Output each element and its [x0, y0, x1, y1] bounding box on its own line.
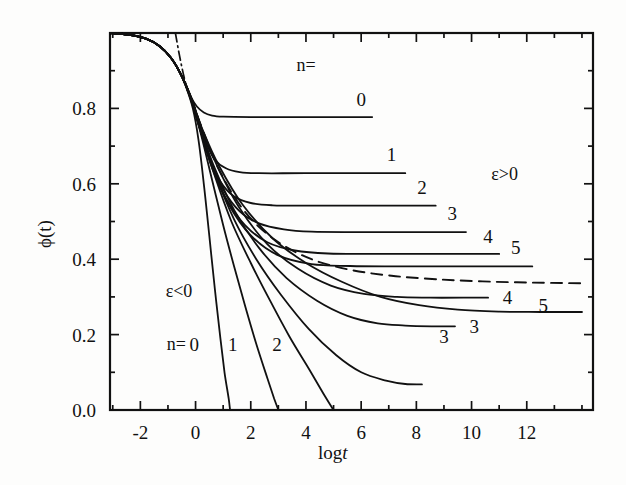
- y-tick-label-0: 0.0: [44, 401, 96, 420]
- x-tick-label-7: 12: [507, 423, 547, 442]
- curve-plateau-3: [110, 33, 466, 232]
- curve-label-plateau-3: 3: [447, 204, 457, 223]
- x-tick-label-6: 10: [452, 423, 492, 442]
- epsilon-positive: ε>0: [491, 165, 518, 183]
- x-tick-label-4: 6: [341, 423, 381, 442]
- curve-decay-3: [110, 33, 422, 384]
- curve-label-lower-4: 4: [503, 287, 513, 306]
- curve-label-plateau-0: 0: [356, 89, 366, 108]
- curve-label-decay-3: 3: [439, 327, 449, 346]
- curve-label-decay-2: 2: [272, 335, 282, 354]
- curve-lower-5: [186, 85, 582, 312]
- n-equals-lower: n=: [167, 335, 186, 353]
- curve-label-plateau-1: 1: [387, 145, 397, 164]
- n-equals-upper: n=: [296, 56, 315, 74]
- curve-label-lower-3: 3: [470, 317, 480, 336]
- x-tick-label-5: 8: [396, 423, 436, 442]
- x-axis-title: logt: [318, 443, 348, 462]
- curve-label-plateau-5: 5: [511, 238, 521, 257]
- curve-label-decay-1: 1: [228, 335, 238, 354]
- y-tick-label-2: 0.4: [44, 250, 96, 269]
- y-tick-label-3: 0.6: [44, 174, 96, 193]
- curve-label-plateau-2: 2: [417, 177, 427, 196]
- curve-label-lower-5: 5: [539, 296, 549, 315]
- y-tick-label-1: 0.2: [44, 325, 96, 344]
- epsilon-negative: ε<0: [166, 282, 193, 300]
- y-axis-title: ϕ(t): [34, 220, 56, 248]
- x-tick-label-2: 2: [231, 423, 271, 442]
- x-tick-label-3: 4: [286, 423, 326, 442]
- y-tick-label-4: 0.8: [44, 99, 96, 118]
- curve-label-decay-0: 0: [189, 335, 199, 354]
- figure-panel: 0.00.20.40.60.8-2024681012n=ε>0ε<0n=0123…: [0, 0, 626, 485]
- curve-critical-dashdot: [175, 33, 187, 91]
- curve-label-plateau-4: 4: [483, 226, 493, 245]
- curve-plateau-2: [110, 33, 436, 206]
- curve-plateau-0: [110, 33, 372, 117]
- x-tick-label-0: -2: [120, 423, 160, 442]
- x-tick-label-1: 0: [176, 423, 216, 442]
- x-axis-title-variable: t: [342, 442, 347, 463]
